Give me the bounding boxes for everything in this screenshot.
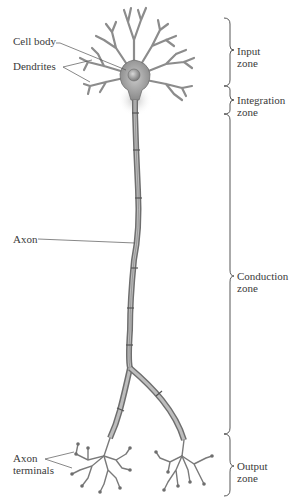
- conduction-zone-label-line2: zone: [237, 282, 258, 295]
- axon-label: Axon: [13, 233, 37, 246]
- axon-terminals: [72, 438, 212, 492]
- nucleus: [128, 69, 140, 81]
- dendrites-label: Dendrites: [13, 60, 56, 73]
- axon-terminals-label-line2: terminals: [13, 464, 54, 477]
- integration-zone-label-line2: zone: [237, 106, 258, 119]
- input-zone-label-line2: zone: [237, 57, 258, 70]
- zone-braces: [224, 18, 234, 496]
- input-zone-brace: [224, 18, 234, 86]
- neuron-diagram: Cell body Dendrites Axon Axon terminals …: [0, 0, 304, 500]
- conduction-zone-brace: [224, 114, 234, 434]
- output-zone-brace: [224, 434, 234, 496]
- cell-body-label: Cell body: [13, 35, 56, 48]
- axon: [110, 100, 184, 440]
- neuron-illustration: [0, 0, 304, 500]
- output-zone-label-line2: zone: [237, 472, 258, 485]
- integration-zone-brace: [224, 86, 234, 114]
